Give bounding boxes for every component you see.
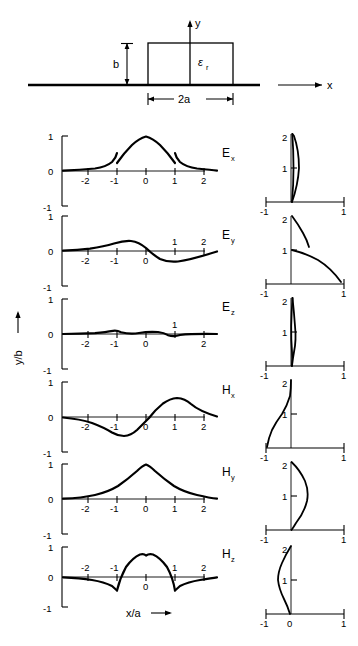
- geometry-y-label: y: [195, 17, 201, 29]
- ez-right-ylabel-1: 1: [282, 327, 287, 338]
- figure-svg: x y ε r b 2a: [0, 0, 358, 646]
- ey-right-ylabel-1: 1: [282, 245, 287, 256]
- y-axis-arrowhead: [187, 20, 192, 27]
- ey-right-ylabel-2: 2: [282, 214, 287, 225]
- ex-left-ylabel-0: 0: [48, 166, 53, 177]
- ex-left-ylabel-1: 1: [48, 131, 53, 142]
- hx-right-xlabel-1: 1: [341, 452, 346, 463]
- hz-left-xlabel-2: 2: [201, 562, 206, 573]
- ex-left-xlabel-0: 0: [143, 175, 148, 186]
- hz-left-xlabel-m2: -2: [81, 562, 89, 573]
- ez-left-ylabel-0: 0: [48, 329, 53, 340]
- hy-left-curve: [63, 465, 217, 499]
- ey-right-xlabel-m1: -1: [260, 288, 268, 299]
- hx-left-xlabel-1: 1: [172, 421, 177, 432]
- hx-left-xlabel-m1: -1: [110, 421, 118, 432]
- geometry-x-label: x: [327, 79, 333, 91]
- ey-left-xlabel-2: 2: [201, 236, 206, 247]
- hz-field-label: H z: [222, 547, 235, 564]
- ex-left-curve-tail-left: [63, 153, 117, 171]
- ez-right-xlabel-m1: -1: [260, 370, 268, 381]
- ez-right-ylabel-2: 2: [282, 296, 287, 307]
- ez-label-sub: z: [231, 308, 235, 317]
- ez-left-xlabel-1: 1: [172, 319, 177, 330]
- 2a-label: 2a: [178, 93, 191, 105]
- ey-left-panel: 1 0 -1 -2 -1 0 1 2: [43, 211, 217, 293]
- ey-left-ylabel-0: 0: [48, 246, 53, 257]
- 2a-arrow-right: [227, 97, 233, 102]
- epsilon-r-label: ε: [198, 56, 203, 68]
- row-ez: 1 0 -1 -2 -1 0 1 2 E z 2 1: [43, 294, 346, 381]
- ex-left-curve-tail-right: [175, 153, 217, 171]
- ex-left-xlabel-m2: -2: [81, 175, 89, 186]
- y-over-b-arrowhead: [15, 311, 20, 318]
- ez-left-xlabel-m1: -1: [110, 338, 118, 349]
- hz-left-panel: 1 0 -1 -2 -1 0 1 2: [43, 542, 217, 614]
- ey-label-main: E: [222, 228, 230, 242]
- ey-label-sub: y: [231, 236, 235, 245]
- hz-left-ylabel-0: 0: [48, 572, 53, 583]
- ex-right-xlabel-m1: -1: [260, 206, 268, 217]
- ez-left-ylabel-m1: -1: [43, 365, 51, 376]
- hz-right-xlabel-1: 1: [341, 618, 346, 629]
- ey-right-panel: 2 1 -1 1: [260, 214, 346, 299]
- geometry-diagram: x y ε r b 2a: [28, 17, 333, 106]
- ey-left-xlabel-1: 1: [172, 236, 177, 247]
- ex-right-ylabel-1: 1: [282, 163, 287, 174]
- hx-right-ylabel-2: 2: [282, 378, 287, 389]
- ey-left-ylabel-1: 1: [48, 211, 53, 222]
- ey-left-xlabel-m1: -1: [110, 255, 118, 266]
- ey-right-xlabel-1: 1: [341, 288, 346, 299]
- ez-right-panel: 2 1 -1 1: [260, 296, 346, 381]
- hy-right-ylabel-2: 2: [282, 460, 287, 471]
- ex-left-xlabel-2: 2: [201, 175, 206, 186]
- hy-left-xlabel-2: 2: [201, 503, 206, 514]
- hx-label-sub: x: [231, 391, 235, 400]
- hz-right-xlabel-0: 0: [287, 618, 292, 629]
- ez-left-xlabel-2: 2: [201, 338, 206, 349]
- ey-left-xlabel-m2: -2: [81, 255, 89, 266]
- ex-label-sub: x: [231, 154, 235, 163]
- hy-left-xlabel-m2: -2: [81, 503, 89, 514]
- row-hz: 1 0 -1 -2 -1 0 1 2 H z: [43, 542, 346, 629]
- hx-left-panel: 1 0 -1 -2 -1 0 1 2: [43, 377, 217, 459]
- hz-left-xlabel-1: 1: [172, 562, 177, 573]
- hx-left-ylabel-m1: -1: [43, 448, 51, 459]
- hx-label-main: H: [222, 383, 231, 397]
- ey-right-curve-upper: [292, 216, 309, 247]
- ex-left-xlabel-1: 1: [172, 175, 177, 186]
- ey-field-label: E y: [222, 228, 235, 245]
- hy-left-panel: 1 0 -1 -2 -1 0 1 2: [43, 459, 217, 541]
- b-label: b: [113, 58, 119, 70]
- hz-left-xlabel-m1: -1: [110, 562, 118, 573]
- ey-left-xlabel-0: 0: [143, 255, 148, 266]
- ez-field-label: E z: [222, 300, 235, 317]
- ex-label-main: E: [222, 146, 230, 160]
- hx-right-panel: 2 1 -1 1: [260, 378, 346, 463]
- hx-field-label: H x: [222, 383, 235, 400]
- epsilon-r-subscript: r: [206, 63, 209, 72]
- hy-right-xlabel-1: 1: [341, 534, 346, 545]
- ex-left-curve-main: [117, 137, 175, 164]
- x-over-a-label: x/a: [126, 607, 142, 619]
- ey-left-ylabel-m1: -1: [43, 282, 51, 293]
- y-over-b-label: y/b: [12, 350, 24, 365]
- ez-left-curve: [63, 331, 217, 336]
- hz-left-ylabel-1: 1: [48, 542, 53, 553]
- hy-left-ylabel-1: 1: [48, 459, 53, 470]
- hy-left-ylabel-0: 0: [48, 494, 53, 505]
- ex-right-panel: 2 1 -1 1: [260, 132, 346, 217]
- hy-left-xlabel-1: 1: [172, 503, 177, 514]
- row-ey: 1 0 -1 -2 -1 0 1 2 E y 2 1: [43, 211, 346, 299]
- ez-left-xlabel-0: 0: [143, 338, 148, 349]
- ex-right-ylabel-2: 2: [282, 132, 287, 143]
- ez-left-xlabel-m2: -2: [81, 338, 89, 349]
- hz-left-curve-right-tail: [175, 577, 217, 590]
- hz-label-sub: z: [231, 555, 235, 564]
- ez-left-ylabel-1: 1: [48, 294, 53, 305]
- hz-label-main: H: [222, 547, 231, 561]
- hx-left-ylabel-1: 1: [48, 377, 53, 388]
- hy-label-sub: y: [231, 473, 235, 482]
- ex-left-xlabel-m1: -1: [110, 175, 118, 186]
- field-distribution-figure: x y ε r b 2a: [0, 0, 358, 646]
